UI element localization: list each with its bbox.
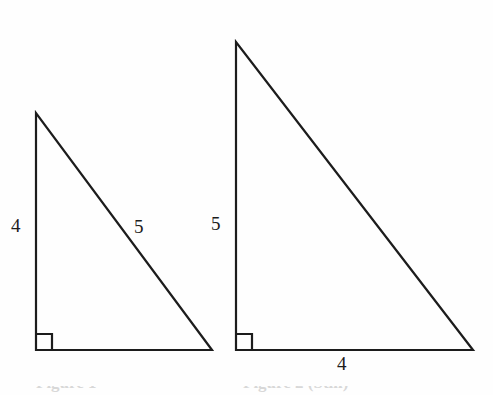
left-triangle bbox=[36, 113, 212, 350]
cropped-caption-right: Figure 2 (Still) bbox=[243, 386, 348, 393]
right-triangle-horizontal-base-label: 4 bbox=[337, 354, 347, 373]
figure-page: 4 5 5 4 Figure 1 Figure 2 (Still) bbox=[0, 0, 493, 395]
right-triangle-vertical-leg-label: 5 bbox=[211, 214, 221, 233]
right-triangle bbox=[236, 42, 473, 350]
cropped-caption-strip: Figure 1 Figure 2 (Still) bbox=[0, 386, 493, 395]
left-triangle-right-angle-marker bbox=[36, 334, 52, 350]
right-triangle-outline bbox=[236, 42, 473, 350]
right-triangle-right-angle-marker bbox=[236, 334, 252, 350]
geometry-diagram bbox=[0, 0, 493, 395]
left-triangle-vertical-leg-label: 4 bbox=[11, 216, 21, 235]
cropped-caption-left: Figure 1 bbox=[36, 386, 97, 393]
left-triangle-outline bbox=[36, 113, 212, 350]
left-triangle-hypotenuse-label: 5 bbox=[134, 217, 144, 236]
